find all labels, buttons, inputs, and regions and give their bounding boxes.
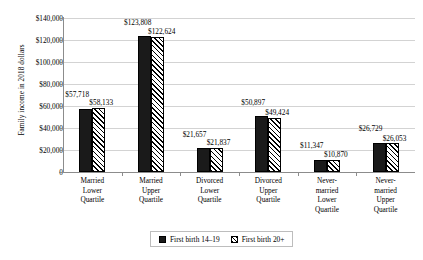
bar-value-label: $26,729 bbox=[359, 125, 383, 132]
bar-value-label: $49,424 bbox=[265, 109, 289, 116]
x-axis-category-label: MarriedLowerQuartile bbox=[59, 176, 125, 205]
x-axis-category-label: MarriedUpperQuartile bbox=[118, 176, 184, 205]
bar-series-1 bbox=[92, 108, 105, 172]
bar-value-label: $21,837 bbox=[207, 139, 231, 146]
bar-series-1 bbox=[268, 118, 281, 172]
x-axis-category-label: DivorcedUpperQuartile bbox=[235, 176, 301, 205]
bar-value-label: $21,657 bbox=[183, 131, 207, 138]
y-axis-tick-label: $100,000 bbox=[5, 58, 63, 67]
bar-series-0 bbox=[314, 160, 327, 172]
bar-series-0 bbox=[373, 143, 386, 172]
x-axis-tick-mark bbox=[180, 173, 181, 176]
legend-label-series-1: First birth 20+ bbox=[242, 235, 285, 244]
y-axis-tick-label: $40,000 bbox=[5, 124, 63, 133]
bar-group: $57,718$58,133 bbox=[79, 18, 105, 172]
y-axis-tick-label: $120,000 bbox=[5, 36, 63, 45]
y-axis-tick-label: $80,000 bbox=[5, 80, 63, 89]
bar-group: $50,897$49,424 bbox=[255, 18, 281, 172]
bar-group: $26,729$26,053 bbox=[373, 18, 399, 172]
bar-value-label: $10,870 bbox=[324, 151, 348, 158]
x-axis-tick-mark bbox=[239, 173, 240, 176]
x-axis-category-label: DivorcedLowerQuartile bbox=[177, 176, 243, 205]
legend-swatch-icon-series-0 bbox=[159, 236, 166, 243]
bar-value-label: $57,718 bbox=[65, 91, 89, 98]
legend-swatch-icon-series-1 bbox=[231, 236, 238, 243]
chart-legend: First birth 14–19 First birth 20+ bbox=[150, 231, 293, 247]
bar-value-label: $122,624 bbox=[148, 28, 175, 35]
x-axis-tick-mark bbox=[122, 173, 123, 176]
y-axis-tick-label: $60,000 bbox=[5, 102, 63, 111]
y-axis-tick-label: 0 bbox=[5, 168, 63, 177]
bar-series-0 bbox=[197, 148, 210, 172]
y-axis-tick-label: $140,000 bbox=[5, 14, 63, 23]
bar-series-0 bbox=[79, 109, 92, 172]
x-axis-tick-mark bbox=[298, 173, 299, 176]
legend-item-series-1: First birth 20+ bbox=[231, 235, 285, 244]
y-axis-tick-labels: $140,000$120,000$100,000$80,000$60,000$4… bbox=[0, 0, 63, 260]
bar-group: $123,808$122,624 bbox=[138, 18, 164, 172]
bar-series-0 bbox=[138, 36, 151, 172]
bar-group: $21,657$21,837 bbox=[197, 18, 223, 172]
bar-series-1 bbox=[151, 37, 164, 172]
y-axis-tick-label: $20,000 bbox=[5, 146, 63, 155]
x-axis-category-labels: MarriedLowerQuartileMarriedUpperQuartile… bbox=[63, 176, 415, 226]
legend-label-series-0: First birth 14–19 bbox=[170, 235, 220, 244]
bar-series-1 bbox=[386, 143, 399, 172]
bar-value-label: $11,347 bbox=[300, 142, 323, 149]
bar-series-1 bbox=[327, 160, 340, 172]
legend-item-series-0: First birth 14–19 bbox=[159, 235, 220, 244]
bar-group: $11,347$10,870 bbox=[314, 18, 340, 172]
bar-value-label: $50,897 bbox=[241, 99, 265, 106]
bar-series-1 bbox=[210, 148, 223, 172]
x-axis-category-label: Never-marriedUpperQuartile bbox=[353, 176, 419, 214]
bar-series-0 bbox=[255, 116, 268, 172]
x-axis-tick-mark bbox=[356, 173, 357, 176]
bars-layer: $57,718$58,133$123,808$122,624$21,657$21… bbox=[63, 18, 415, 172]
bar-value-label: $123,808 bbox=[124, 19, 151, 26]
bar-value-label: $26,053 bbox=[383, 135, 407, 142]
x-axis-category-label: Never-marriedLowerQuartile bbox=[294, 176, 360, 214]
bar-chart: Family income in 2018 dollars $140,000$1… bbox=[0, 0, 423, 260]
bar-value-label: $58,133 bbox=[89, 99, 113, 106]
